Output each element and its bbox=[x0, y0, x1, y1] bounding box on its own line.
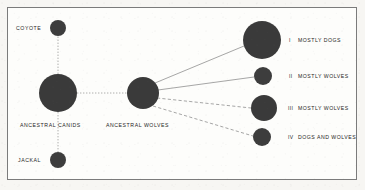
node-group-iii[interactable] bbox=[251, 95, 277, 121]
node-coyote[interactable] bbox=[50, 20, 66, 36]
link-wolves-ii bbox=[158, 77, 254, 90]
label-ancestral-wolves: ANCESTRAL WOLVES bbox=[106, 123, 169, 128]
diagram-graphics bbox=[0, 0, 365, 190]
label-group-iii: MOSTLY WOLVES bbox=[298, 106, 349, 111]
label-group-ii: MOSTLY WOLVES bbox=[298, 74, 349, 79]
label-ancestral-canids: ANCESTRAL CANIDS bbox=[20, 123, 81, 128]
node-ancestral-wolves[interactable] bbox=[127, 77, 159, 109]
roman-group-iv: IV bbox=[288, 135, 293, 140]
roman-group-iii: III bbox=[288, 106, 293, 111]
node-group bbox=[39, 20, 281, 168]
node-ancestral-canids[interactable] bbox=[39, 74, 77, 112]
label-coyote: COYOTE bbox=[16, 26, 41, 31]
node-group-i[interactable] bbox=[243, 21, 281, 59]
roman-group-i: I bbox=[289, 38, 291, 43]
link-wolves-i bbox=[155, 46, 244, 83]
label-group-i: MOSTLY DOGS bbox=[298, 38, 341, 43]
figure-canvas: COYOTE ANCESTRAL CANIDS JACKAL ANCESTRAL… bbox=[0, 0, 365, 190]
link-wolves-iv bbox=[153, 106, 253, 136]
label-jackal: JACKAL bbox=[18, 158, 41, 163]
label-group-iv: DOGS AND WOLVES bbox=[298, 135, 356, 140]
node-group-iv[interactable] bbox=[253, 128, 271, 146]
node-group-ii[interactable] bbox=[254, 67, 272, 85]
roman-group-ii: II bbox=[289, 74, 292, 79]
node-jackal[interactable] bbox=[50, 152, 66, 168]
link-wolves-iii bbox=[157, 98, 251, 108]
